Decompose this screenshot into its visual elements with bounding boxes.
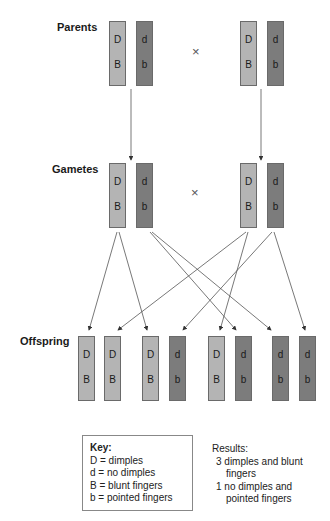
results-line: pointed fingers <box>212 493 303 506</box>
results-block: Results: 3 dimples and blunt fingers 1 n… <box>212 443 303 506</box>
key-item: b = pointed fingers <box>90 492 192 505</box>
results-line: 1 no dimples and <box>212 481 303 494</box>
arrow-g2d-to-off2b <box>183 232 272 330</box>
arrow-g1d-to-off4a <box>152 232 271 330</box>
arrow-g2D-to-off3a <box>220 232 248 330</box>
arrow-g1d-to-off3b <box>150 232 236 330</box>
key-box: Key: D = dimples d = no dimples B = blun… <box>82 435 193 511</box>
arrow-g2D-to-off1b <box>118 232 246 330</box>
arrow-g1D-to-off1a <box>89 232 117 330</box>
results-line: 3 dimples and blunt <box>212 456 303 469</box>
key-item: B = blunt fingers <box>90 480 192 493</box>
key-item: D = dimples <box>90 455 192 468</box>
results-title: Results: <box>212 443 303 456</box>
results-line: fingers <box>212 468 303 481</box>
arrow-g2d-to-off4b <box>274 232 305 330</box>
key-item: d = no dimples <box>90 467 192 480</box>
key-title: Key: <box>90 442 192 455</box>
arrow-g1D-to-off2a <box>119 232 147 330</box>
